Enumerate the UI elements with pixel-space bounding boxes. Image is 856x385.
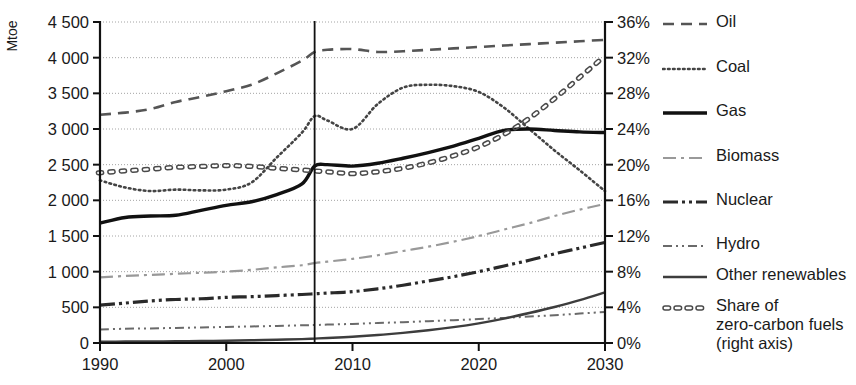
y-tick-label-right: 32%: [617, 49, 650, 67]
y-tick-label-left: 3 500: [48, 84, 89, 102]
series-oil: [100, 40, 605, 115]
series-line: [100, 242, 605, 305]
chart-figure: Mtoe 05001 0001 5002 0002 5003 0003 5004…: [0, 0, 856, 385]
series-marker: [131, 168, 138, 172]
legend-item-biomass[interactable]: Biomass: [662, 146, 779, 166]
series-marker: [593, 59, 601, 67]
y-tick-label-left: 3 000: [48, 120, 89, 138]
x-tick-label: 2010: [334, 355, 371, 373]
series-marker: [522, 117, 530, 124]
legend-label: Gas: [716, 101, 746, 120]
series-marker: [211, 164, 218, 168]
y-tick-label-right: 12%: [617, 227, 650, 245]
legend-swatch-dashdot-long-icon: [662, 150, 708, 166]
y-tick-label-right: 4%: [617, 298, 641, 316]
series-marker: [550, 96, 558, 103]
y-tick-label-right: 0%: [617, 334, 641, 352]
series-marker: [541, 103, 549, 110]
series-marker: [558, 88, 566, 96]
series-marker: [108, 170, 115, 174]
legend-item-nuclear[interactable]: Nuclear: [662, 190, 773, 210]
series-marker: [472, 145, 480, 151]
legend-label: Share of zero-carbon fuels (right axis): [716, 296, 843, 353]
y-tick-label-right: 20%: [617, 156, 650, 174]
series-marker: [280, 167, 287, 171]
series-marker: [200, 164, 207, 168]
series-marker: [257, 165, 264, 169]
series-marker: [291, 167, 298, 171]
legend-label: Oil: [716, 12, 736, 31]
series-hydro: [100, 312, 605, 329]
legend-item-share-of[interactable]: Share of zero-carbon fuels (right axis): [662, 296, 843, 353]
series-share-of-zero-carbon-fuels-right-axis: [96, 59, 601, 176]
series-marker: [567, 81, 575, 89]
series-marker: [493, 135, 501, 142]
legend-label: Coal: [716, 57, 750, 76]
legend-item-hydro[interactable]: Hydro: [662, 234, 760, 254]
legend-item-other-renewables[interactable]: Other renewables: [662, 265, 846, 285]
series-marker: [234, 164, 241, 168]
series-marker: [360, 171, 367, 175]
series-marker: [188, 165, 195, 169]
y-tick-label-left: 4 000: [48, 49, 89, 67]
y-tick-label-left: 2 500: [48, 156, 89, 174]
legend-label: Other renewables: [716, 265, 846, 284]
series-marker: [223, 164, 230, 168]
series-marker: [246, 164, 253, 168]
series-marker: [576, 73, 584, 81]
series-marker: [406, 164, 414, 169]
series-marker: [394, 167, 402, 172]
y-tick-label-right: 28%: [617, 84, 650, 102]
series-marker: [349, 172, 356, 176]
series-marker: [177, 165, 184, 169]
series-marker: [585, 66, 593, 74]
x-tick-label: 2020: [460, 355, 497, 373]
series-marker: [531, 110, 539, 117]
series-marker: [303, 168, 310, 172]
series-marker: [461, 149, 469, 155]
y-tick-label-left: 2 000: [48, 191, 89, 209]
y-tick-label-right: 8%: [617, 263, 641, 281]
chart-legend: OilCoalGasBiomassNuclearHydroOther renew…: [662, 0, 856, 385]
series-marker: [383, 168, 391, 173]
legend-item-gas[interactable]: Gas: [662, 101, 746, 121]
series-line: [100, 312, 605, 329]
legend-swatch-solid-thin-icon: [662, 269, 708, 285]
x-tick-label: 2000: [208, 355, 245, 373]
legend-item-coal[interactable]: Coal: [662, 57, 750, 77]
legend-label: Hydro: [716, 234, 760, 253]
y-tick-label-left: 1 500: [48, 227, 89, 245]
series-marker: [439, 156, 447, 162]
y-tick-label-right: 24%: [617, 120, 650, 138]
legend-item-oil[interactable]: Oil: [662, 12, 736, 32]
legend-label: Biomass: [716, 146, 779, 165]
y-tick-label-right: 36%: [617, 13, 650, 31]
series-marker: [119, 169, 126, 173]
legend-swatch-solid-icon: [662, 105, 708, 121]
series-marker: [337, 171, 344, 175]
legend-label: Nuclear: [716, 190, 773, 209]
y-tick-label-right: 16%: [617, 191, 650, 209]
legend-swatch-dotted-icon: [662, 61, 708, 77]
series-marker: [428, 159, 436, 164]
legend-swatch-dashdotdot-icon: [662, 194, 708, 210]
series-marker: [450, 153, 458, 159]
x-tick-label: 1990: [82, 355, 119, 373]
y-tick-label-left: 1 000: [48, 263, 89, 281]
y-tick-label-left: 4 500: [48, 13, 89, 31]
series-marker: [326, 170, 334, 174]
y-tick-label-left: 500: [61, 298, 89, 316]
series-marker: [165, 166, 172, 170]
legend-swatch-dashdot-short-icon: [662, 238, 708, 254]
y-tick-label-left: 0: [80, 334, 89, 352]
series-line: [100, 40, 605, 115]
series-nuclear: [100, 242, 605, 305]
series-marker: [268, 166, 275, 170]
legend-swatch-open-dash-icon: [662, 300, 708, 316]
series-marker: [142, 167, 149, 171]
series-marker: [372, 170, 380, 175]
legend-swatch-dashed-icon: [662, 16, 708, 32]
series-marker: [154, 166, 161, 170]
x-tick-label: 2030: [587, 355, 624, 373]
series-marker: [482, 140, 490, 147]
